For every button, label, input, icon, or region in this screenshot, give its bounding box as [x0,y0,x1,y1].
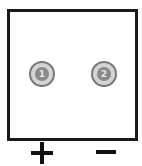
component-body [7,9,138,141]
positive-sign-icon [31,142,53,164]
terminal-2: 2 [91,61,117,87]
terminal-1: 1 [29,61,55,87]
negative-sign-icon [96,150,116,154]
terminal-2-label: 2 [97,67,111,81]
terminal-1-label: 1 [35,67,49,81]
